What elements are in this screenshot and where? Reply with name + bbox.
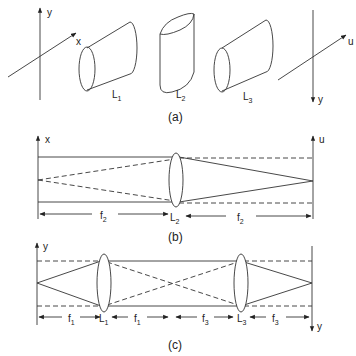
y-axis-label: y (47, 7, 52, 18)
distance-f2-left: f2 (100, 210, 107, 223)
y-axis-label: y (43, 241, 48, 252)
right-coordinate-axes: y u (278, 10, 354, 105)
cylindrical-lens-l3: L3 (214, 20, 273, 104)
cylindrical-lens-l1: L1 (79, 22, 137, 102)
cylindrical-lens-l2: L2 (160, 13, 194, 102)
lens-l3-label: L3 (243, 91, 253, 104)
lens-l2 (169, 153, 183, 207)
lens-l1-label: L1 (99, 313, 109, 326)
x-axis-label: x (76, 36, 81, 47)
panel-b: x u f2 f2 L2 (b) (38, 134, 325, 244)
u-axis-arrow (278, 35, 346, 80)
left-coordinate-axes: y x (8, 7, 81, 100)
u-axis-label: u (319, 134, 325, 145)
lens-l2-label: L2 (170, 212, 180, 225)
lens-l1-label: L1 (112, 89, 122, 102)
lens-l3-label: L3 (237, 313, 247, 326)
panel-a: y x L1 L2 L3 y u (a) (8, 7, 354, 124)
distance-f2-right: f2 (237, 212, 244, 225)
optical-system-diagram: y x L1 L2 L3 y u (a) (0, 0, 356, 356)
lens-l1 (97, 254, 111, 312)
lens-l2-label: L2 (176, 89, 186, 102)
caption-a: (a) (168, 110, 183, 124)
x-axis-arrow (8, 33, 76, 77)
x-axis-label: x (45, 134, 50, 145)
distance-f3-right: f3 (272, 313, 279, 326)
panel-c: y y f1 L1 f1 f3 L3 f3 (37, 241, 322, 352)
y-axis-label-right: y (318, 94, 323, 105)
distance-f1-right: f1 (134, 313, 141, 326)
u-axis-label: u (348, 36, 354, 47)
y-axis-label-right: y (317, 321, 322, 332)
distance-f3-left: f3 (202, 313, 209, 326)
caption-c: (c) (168, 338, 182, 352)
caption-b: (b) (168, 230, 183, 244)
lens-l3 (234, 254, 248, 312)
distance-f1-left: f1 (68, 313, 75, 326)
